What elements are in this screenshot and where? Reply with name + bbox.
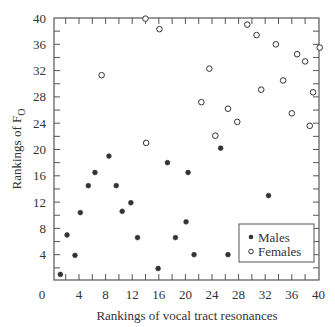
scatter-chart: 0481216202428323640 481216202428323640 M…	[0, 0, 335, 327]
male-point	[58, 272, 63, 277]
y-tick-label: 24	[33, 116, 47, 131]
female-point	[280, 78, 286, 84]
x-tick-label: 4	[76, 287, 83, 302]
female-point	[310, 89, 316, 95]
y-tick-label: 12	[33, 195, 46, 210]
female-point	[273, 42, 279, 48]
x-tick-label: 20	[179, 287, 192, 302]
female-point	[213, 133, 219, 139]
male-point	[73, 253, 78, 258]
x-tick-label: 0	[39, 287, 46, 302]
female-point	[207, 66, 213, 72]
x-tick-label: 40	[312, 287, 325, 302]
male-point	[65, 233, 70, 238]
male-point	[114, 183, 119, 188]
male-point	[173, 235, 178, 240]
y-axis-label-main: Rankings of F	[9, 116, 24, 190]
male-point	[93, 170, 98, 175]
female-point	[143, 140, 149, 146]
female-point	[225, 106, 231, 112]
male-point	[218, 146, 223, 151]
male-point	[156, 266, 161, 271]
male-point	[165, 160, 170, 165]
y-axis-label: Rankings of FO	[9, 109, 27, 190]
y-tick-labels: 481216202428323640	[33, 11, 47, 263]
x-tick-label: 36	[285, 287, 299, 302]
female-point	[254, 32, 260, 38]
male-point	[186, 170, 191, 175]
legend-females-label: Females	[258, 244, 301, 259]
male-point	[184, 219, 189, 224]
x-tick-label: 8	[102, 287, 109, 302]
male-point	[135, 235, 140, 240]
y-tick-label: 32	[33, 63, 46, 78]
female-point	[317, 45, 323, 51]
female-point	[157, 26, 163, 32]
male-point	[107, 154, 112, 159]
female-point	[258, 87, 264, 93]
y-tick-label: 8	[40, 221, 47, 236]
male-point	[266, 193, 271, 198]
legend-females-marker-icon	[249, 249, 254, 254]
female-point	[294, 51, 300, 57]
legend-males-label: Males	[258, 230, 290, 245]
female-point	[99, 72, 105, 78]
male-point	[226, 252, 231, 257]
legend-males-marker-icon	[249, 235, 254, 240]
x-tick-label: 32	[259, 287, 272, 302]
female-point	[289, 111, 295, 117]
plot-area: 0481216202428323640 481216202428323640 M…	[0, 0, 335, 327]
y-tick-label: 20	[33, 142, 46, 157]
x-axis-label: Rankings of vocal tract resonances	[96, 308, 277, 323]
y-tick-label: 4	[40, 247, 47, 262]
y-axis-label-subscript: O	[16, 109, 27, 116]
female-point	[143, 16, 149, 22]
female-point	[234, 119, 240, 125]
male-point	[128, 200, 133, 205]
female-point	[307, 123, 313, 129]
female-point	[199, 99, 205, 105]
female-point	[244, 22, 250, 28]
male-point	[78, 210, 83, 215]
x-tick-label: 24	[206, 287, 220, 302]
x-tick-label: 12	[126, 287, 139, 302]
male-point	[192, 252, 197, 257]
x-tick-label: 16	[152, 287, 166, 302]
series-females	[99, 16, 323, 146]
y-tick-label: 40	[33, 11, 46, 26]
y-tick-label: 16	[33, 168, 47, 183]
y-tick-label: 28	[33, 89, 46, 104]
male-point	[86, 183, 91, 188]
x-tick-label: 28	[232, 287, 245, 302]
y-tick-label: 36	[33, 37, 47, 52]
male-point	[120, 209, 125, 214]
female-point	[302, 59, 308, 65]
legend: Males Females	[239, 224, 314, 262]
x-tick-labels: 0481216202428323640	[39, 287, 325, 302]
